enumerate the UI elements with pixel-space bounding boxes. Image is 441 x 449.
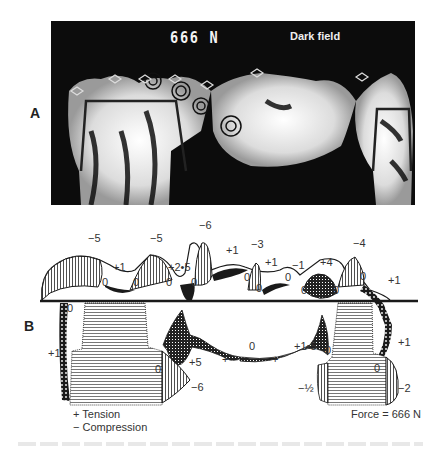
panel-a-label: A <box>30 105 40 121</box>
stress-label: +2•5 <box>168 262 191 273</box>
stress-label: + <box>272 354 278 365</box>
stress-label: 0 <box>301 285 307 296</box>
stress-label: +1 <box>48 348 61 359</box>
stress-label: −6 <box>199 220 212 231</box>
legend: + Tension − Compression <box>73 408 147 434</box>
photo-force-label: 666 N <box>170 28 219 47</box>
stress-label: 0 <box>102 277 108 288</box>
photo-mode-label: Dark field <box>290 30 340 42</box>
stress-label: +1 <box>388 275 401 286</box>
stress-label: 0 <box>166 277 172 288</box>
stress-label: +1 <box>113 262 126 273</box>
stress-label: 0 <box>191 277 197 288</box>
stress-label: 0 <box>374 363 380 374</box>
stress-label: 0 <box>285 272 291 283</box>
stress-label: −5 <box>88 233 101 244</box>
stress-label: −1 <box>292 260 305 271</box>
stress-distribution-diagram <box>0 215 441 415</box>
stress-label: 0 <box>360 271 366 282</box>
stress-label: −½ <box>298 383 314 394</box>
stress-label: +1•5 <box>294 341 317 352</box>
stress-label: +5 <box>189 357 202 368</box>
stress-label: 0 <box>67 303 73 314</box>
stress-label: 0 <box>249 341 255 352</box>
stress-label: −6 <box>191 382 204 393</box>
stress-label: +1 <box>226 245 239 256</box>
stress-label: 0 <box>256 283 262 294</box>
legend-tension: + Tension <box>73 408 147 421</box>
stress-label: +1 <box>398 337 411 348</box>
stress-label: −3 <box>251 239 264 250</box>
force-note: Force = 666 N <box>351 408 421 420</box>
stress-label: 0 <box>155 364 161 375</box>
stress-label: 0 <box>333 285 339 296</box>
stress-label: −5 <box>150 233 163 244</box>
stress-label: −2 <box>398 383 411 394</box>
photoelastic-image: 666 N Dark field <box>51 21 415 205</box>
legend-compression: − Compression <box>73 421 147 434</box>
fringe-pattern <box>51 21 415 205</box>
stress-label: −4 <box>353 238 366 249</box>
stress-label: + <box>222 354 228 365</box>
stress-label: 0 <box>244 272 250 283</box>
stress-label: 0 <box>325 345 331 356</box>
caption-fragment <box>18 442 423 446</box>
stress-label: +4 <box>320 257 333 268</box>
stress-label: 0 <box>133 277 139 288</box>
stress-label: +1 <box>265 257 278 268</box>
